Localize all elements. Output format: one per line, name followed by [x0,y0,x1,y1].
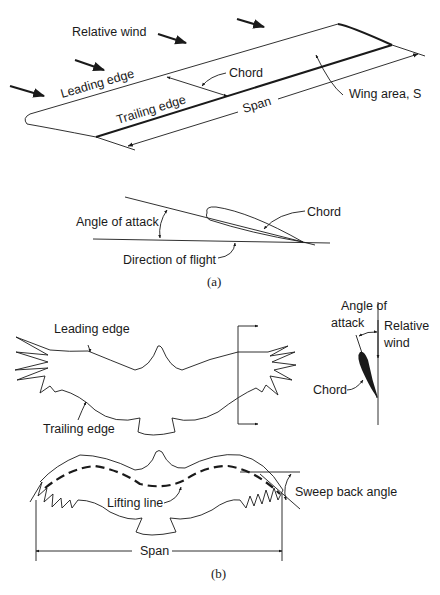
trailing-edge-label: Trailing edge [43,422,115,436]
wing-area-label: Wing area, S [349,87,421,101]
chord-leader [202,73,226,86]
root-airfoil-outline [25,114,96,137]
span-extension-left [96,137,135,150]
wing-tip-outline [338,24,392,45]
relative-label: Relative [384,319,429,333]
figure-a-label: (a) [207,274,221,289]
relative-wind-label: Relative wind [72,25,146,39]
direction-of-flight-label: Direction of flight [123,253,217,267]
wind-arrow-icon [237,19,264,27]
wind-arrow-icon [158,34,186,43]
span-extension-right [392,45,425,56]
right-wing-feathers [256,346,296,395]
trailing-edge-line [96,45,392,137]
wind-arrow-icon [75,60,104,70]
airfoil-outline [206,207,303,242]
chord-dimension-arrow [167,77,227,96]
span-label: Span [140,544,169,558]
flight-direction-leader [218,243,235,258]
bird2-left-feathers [30,482,78,508]
span-label: Span [241,94,273,116]
bird-section-figure: Angle of attack Relative wind Chord [313,299,429,425]
section-chord-leader [347,380,363,390]
attack-label: attack [331,316,365,330]
angle-of-attack-arc [160,210,167,238]
chord-label: Chord [307,205,341,219]
figure-b-label: (b) [211,566,226,581]
lifting-line-label: Lifting line [107,496,163,510]
wind-arrow-icon [10,86,44,96]
bird2-right-feathers [240,488,283,508]
leading-edge-label: Leading edge [59,67,136,101]
trailing-edge-leader [78,402,86,420]
wind-label: wind [383,336,410,350]
chord-label: Chord [229,66,263,80]
section-aoa-arc [359,332,377,336]
chord-label: Chord [313,383,347,397]
wing-geometry-diagram: Relative wind Leading edge Trailing edge… [0,0,440,595]
wing-section-shape [358,352,378,398]
bird-lifting-line-figure: Lifting line Sweep back angle Span (b) [30,451,397,582]
bird-leading-edge-outline [50,346,268,370]
angle-of-attack-label: Angle of attack [76,215,159,229]
sweep-back-angle-label: Sweep back angle [295,485,397,499]
leading-edge-label: Leading edge [54,322,130,336]
wing-3d-figure: Relative wind Leading edge Trailing edge… [10,19,425,150]
chord-leader [264,211,305,229]
trailing-edge-label: Trailing edge [115,92,188,126]
bird-planform-figure: Leading edge Trailing edge [15,322,296,436]
lifting-line-leader [164,487,181,503]
lifting-line-dashed [45,466,280,494]
airfoil-angle-figure: Angle of attack Chord Direction of fligh… [76,197,341,289]
angle-of-label: Angle of [341,299,387,313]
left-wing-feathers [15,337,62,393]
